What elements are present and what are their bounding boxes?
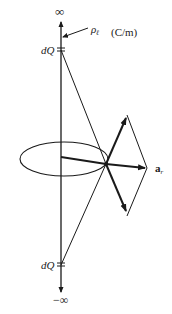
field-vector-up xyxy=(106,118,126,164)
field-point xyxy=(104,162,108,166)
rho-pointer-arrow xyxy=(63,28,88,37)
units-label: (C/m) xyxy=(111,26,138,39)
bottom-infinity-label: −∞ xyxy=(53,293,68,307)
line-from-bottom-dq xyxy=(61,164,106,265)
line-charge-field-diagram: ∞ −∞ ρℓ (C/m) dQ dQ ar xyxy=(0,0,172,314)
dq-bottom-label: dQ xyxy=(41,259,55,271)
top-infinity-label: ∞ xyxy=(55,4,64,19)
rho-label: ρℓ xyxy=(90,23,99,37)
unit-vector-label: ar xyxy=(155,162,164,176)
line-from-top-dq xyxy=(61,50,106,164)
parallelogram-edge-top xyxy=(127,115,147,168)
field-vector-down xyxy=(106,164,126,211)
resultant-vector-ar xyxy=(106,164,145,168)
parallelogram-edge-bottom xyxy=(127,168,147,216)
dq-top-label: dQ xyxy=(41,44,55,56)
symmetry-circle xyxy=(20,142,108,176)
radial-distance-line xyxy=(61,157,106,164)
